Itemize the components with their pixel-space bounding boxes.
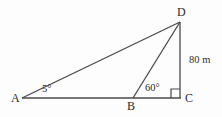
measure-label-dc: 80 m xyxy=(189,55,210,66)
geometry-figure: A B C D 5° 60° 80 m xyxy=(0,0,222,117)
right-angle-marker-icon xyxy=(171,89,180,98)
vertex-label-a: A xyxy=(11,92,20,104)
angle-label-at-b: 60° xyxy=(145,83,160,94)
vertex-label-c: C xyxy=(185,92,193,104)
vertex-label-d: D xyxy=(177,6,186,18)
angle-label-at-a: 5° xyxy=(42,84,51,95)
vertex-label-b: B xyxy=(127,100,135,112)
